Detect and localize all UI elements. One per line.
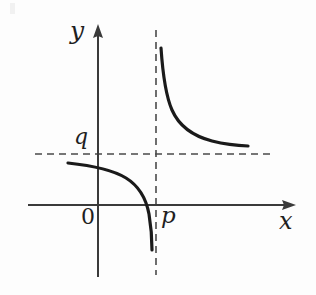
x-axis-label: x [279,209,293,233]
origin-label: 0 [81,206,95,228]
hyperbola-branch-upper-right [161,48,248,146]
y-axis-label: y [70,18,84,43]
y-axis-arrowhead [93,24,103,38]
graph-canvas [0,0,316,295]
horizontal-asymptote-label: q [74,126,88,148]
vertical-asymptote-label: p [161,204,176,227]
hyperbola-figure: y x q p 0 [0,0,316,295]
